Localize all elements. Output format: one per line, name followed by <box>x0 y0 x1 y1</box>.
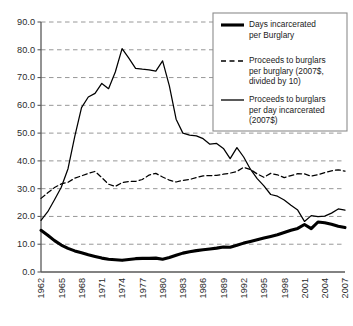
chart-legend: Days incarceratedper BurglaryProceeds to… <box>213 13 347 131</box>
x-tick-label: 2001 <box>300 278 310 298</box>
x-tick-label: 1989 <box>219 278 229 298</box>
x-tick-label: 2007 <box>340 278 350 298</box>
x-tick-label: 2004 <box>320 278 330 298</box>
legend-label-1-line-1: per burglary (2007$, <box>249 66 324 76</box>
legend-label-0-line-0: Days incarcerated <box>249 19 316 29</box>
y-tick-label: 0.0 <box>22 267 35 277</box>
x-tick-label: 1977 <box>138 278 148 298</box>
y-tick-label: 80.0 <box>17 45 35 55</box>
x-tick-label: 1998 <box>280 278 290 298</box>
x-tick-label: 1995 <box>259 278 269 298</box>
y-tick-label: 60.0 <box>17 100 35 110</box>
y-tick-label: 40.0 <box>17 156 35 166</box>
legend-label-1-line-2: divided by 10) <box>249 76 301 86</box>
y-axis <box>38 22 42 272</box>
x-tick-label: 1965 <box>57 278 67 298</box>
y-tick-label: 20.0 <box>17 211 35 221</box>
line-chart: 0.010.020.030.040.050.060.070.080.090.0 … <box>0 0 353 326</box>
x-tick-label: 1986 <box>198 278 208 298</box>
x-tick-label: 1971 <box>97 278 107 298</box>
y-tick-label: 90.0 <box>17 17 35 27</box>
y-tick-label: 50.0 <box>17 128 35 138</box>
y-tick-label: 30.0 <box>17 184 35 194</box>
x-tick-label: 1980 <box>158 278 168 298</box>
x-axis-tick-labels: 1962196519681971197419771980198319861989… <box>36 278 350 298</box>
y-tick-label: 10.0 <box>17 239 35 249</box>
legend-label-0-line-1: per Burglary <box>249 30 295 40</box>
x-tick-label: 1968 <box>77 278 87 298</box>
y-tick-label: 70.0 <box>17 72 35 82</box>
x-tick-label: 1992 <box>239 278 249 298</box>
legend-label-1-line-0: Proceeds to burglars <box>249 55 326 65</box>
x-tick-label: 1983 <box>178 278 188 298</box>
legend-label-2-line-0: Proceeds to burglars <box>249 94 326 104</box>
x-tick-label: 1974 <box>117 278 127 298</box>
legend-label-2-line-1: per day incarcerated <box>249 105 325 115</box>
y-axis-tick-labels: 0.010.020.030.040.050.060.070.080.090.0 <box>17 17 35 277</box>
chart-container: 0.010.020.030.040.050.060.070.080.090.0 … <box>0 0 353 326</box>
legend-label-2-line-2: (2007$) <box>249 115 278 125</box>
x-tick-label: 1962 <box>36 278 46 298</box>
